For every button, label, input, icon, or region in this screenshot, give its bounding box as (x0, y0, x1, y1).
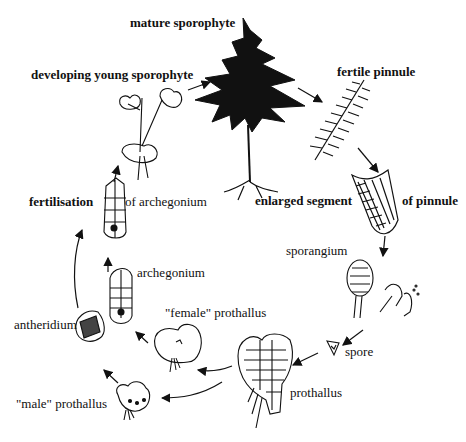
label-prothallus: prothallus (290, 386, 342, 399)
label-female-prothallus: "female" prothallus (165, 306, 266, 319)
label-mature-sporophyte: mature sporophyte (130, 16, 235, 29)
label-archegonium: archegonium (137, 266, 205, 279)
antheridium-drawing (76, 311, 104, 341)
young-sporophyte-drawing (120, 89, 182, 180)
label-enlarged-segment: enlarged segment (255, 194, 352, 207)
fertile-pinnule-drawing (310, 80, 370, 160)
label-antheridium: antheridium (14, 318, 77, 331)
label-spore: spore (345, 345, 373, 358)
sporangium-drawing (347, 260, 419, 318)
prothallus-drawing (238, 334, 292, 428)
archegonium-drawing (110, 269, 132, 324)
label-fertilisation: fertilisation (29, 195, 93, 208)
label-male-prothallus: "male" prothallus (16, 397, 107, 410)
label-fertile-pinnule: fertile pinnule (337, 65, 415, 78)
label-of-pinnule: of pinnule (402, 194, 458, 207)
mature-sporophyte-drawing (195, 18, 305, 200)
cycle-arrows (75, 82, 385, 398)
fertilised-archegonium-drawing (104, 178, 126, 238)
female-prothallus-drawing (155, 324, 202, 372)
label-sporangium: sporangium (286, 244, 347, 257)
label-developing-young-sporophyte: developing young sporophyte (31, 68, 193, 81)
male-prothallus-drawing (117, 382, 150, 420)
spore-drawing (327, 341, 339, 355)
enlarged-segment-drawing (352, 170, 398, 234)
label-of-archegonium: of archegonium (125, 195, 207, 208)
